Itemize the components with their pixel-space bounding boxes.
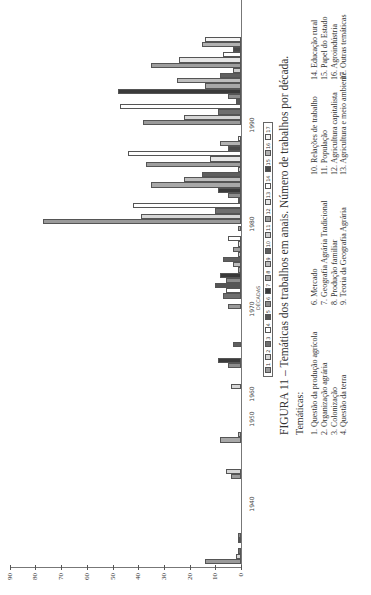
- y-tick-label: 70: [57, 573, 65, 595]
- bar: [205, 559, 241, 564]
- bar: [143, 120, 241, 125]
- bar: [146, 162, 241, 167]
- legend-swatch: [265, 150, 271, 156]
- bar: [228, 193, 241, 198]
- bar: [238, 226, 241, 231]
- legend-label: 3: [265, 336, 271, 339]
- chart-legend: 1234567891011121314151617: [263, 122, 273, 377]
- bar: [233, 247, 241, 252]
- legend-item: 4: [265, 323, 271, 333]
- bar: [220, 73, 241, 78]
- bar: [210, 156, 241, 161]
- legend-item: 6: [265, 297, 271, 307]
- bar: [238, 167, 241, 172]
- bar: [238, 241, 241, 246]
- legend-item: 2: [265, 350, 271, 360]
- y-tick-mark: [241, 565, 242, 570]
- theme-item: 2. Organização agrária: [320, 332, 330, 435]
- decade-label: 1990: [248, 117, 255, 132]
- y-tick-mark: [190, 565, 191, 570]
- bar: [226, 469, 241, 474]
- rotated-figure: 0102030405060708090 19401950196019701980…: [0, 0, 371, 595]
- bar: [133, 203, 241, 208]
- y-tick-label: 80: [31, 573, 39, 595]
- y-tick-mark: [164, 565, 165, 570]
- legend-item: 1: [265, 363, 271, 373]
- themes-heading: Temáticas:: [294, 392, 305, 435]
- bar: [233, 68, 241, 73]
- legend-swatch: [265, 301, 271, 307]
- legend-item: 14: [265, 175, 271, 188]
- theme-item: 7. Geografia Agrária Tradicional: [320, 201, 330, 305]
- legend-item: 17: [265, 126, 271, 139]
- theme-item: 6. Mercado: [310, 201, 320, 305]
- theme-item: 17. Outras temáticas: [339, 14, 349, 80]
- bar: [238, 267, 241, 272]
- bar: [151, 182, 241, 187]
- bar: [223, 257, 241, 262]
- bar: [228, 146, 241, 151]
- legend-swatch: [265, 216, 271, 222]
- bar: [43, 219, 241, 224]
- theme-item: 4. Questão da terra: [339, 332, 349, 435]
- y-tick-mark: [215, 565, 216, 570]
- decade-group: [0, 306, 241, 394]
- theme-item: 9. Teoria da Geografia Agrária: [339, 201, 349, 305]
- bar: [202, 42, 241, 47]
- y-tick-mark: [35, 565, 36, 570]
- y-tick-label: 20: [186, 573, 194, 595]
- decade-label: 1970: [248, 301, 255, 316]
- bar: [238, 538, 241, 543]
- bar: [238, 198, 241, 203]
- bar: [233, 47, 241, 52]
- bar: [231, 474, 241, 479]
- legend-swatch: [265, 183, 271, 189]
- bar: [218, 358, 241, 363]
- legend-label: 4: [265, 323, 271, 326]
- bar: [226, 288, 241, 293]
- theme-item: 8. Produção familiar: [330, 201, 340, 305]
- bar: [226, 278, 241, 283]
- y-tick-mark: [10, 565, 11, 570]
- bar: [223, 52, 241, 57]
- legend-label: 9: [265, 257, 271, 260]
- legend-label: 5: [265, 310, 271, 313]
- bar: [238, 252, 241, 257]
- theme-item: 3. Colonização: [330, 332, 340, 435]
- legend-label: 6: [265, 297, 271, 300]
- legend-label: 12: [265, 208, 271, 214]
- y-tick-label: 90: [6, 573, 14, 595]
- legend-label: 11: [265, 225, 271, 231]
- decade-label: 1980: [248, 216, 255, 231]
- legend-item: 7: [265, 284, 271, 294]
- decade-group: [0, 476, 241, 564]
- y-tick-label: 50: [109, 573, 117, 595]
- bar-chart: 0102030405060708090 19401950196019701980…: [0, 0, 250, 595]
- bar: [238, 432, 241, 437]
- bar: [120, 104, 241, 109]
- decade-label: 1940: [248, 496, 255, 511]
- bar: [238, 548, 241, 553]
- legend-swatch: [265, 275, 271, 281]
- bar: [236, 554, 241, 559]
- legend-swatch: [265, 248, 271, 254]
- legend-item: 11: [265, 225, 271, 238]
- legend-swatch: [265, 134, 271, 140]
- legend-label: 2: [265, 350, 271, 353]
- bar: [238, 533, 241, 538]
- x-axis-baseline: [241, 0, 242, 568]
- legend-label: 13: [265, 192, 271, 198]
- legend-swatch: [265, 199, 271, 205]
- bar: [179, 57, 241, 62]
- bar: [215, 208, 241, 213]
- bar: [228, 236, 241, 241]
- bar: [184, 115, 241, 120]
- legend-item: 12: [265, 208, 271, 221]
- theme-item: 16. Agroindústria: [330, 14, 340, 80]
- themes-list-col1: 1. Questão da produção agrícola 2. Organ…: [310, 332, 349, 435]
- bar: [218, 188, 241, 193]
- decade-group: [0, 221, 241, 309]
- bar: [205, 83, 241, 88]
- legend-item: 16: [265, 143, 271, 156]
- y-tick-label: 0: [237, 573, 245, 595]
